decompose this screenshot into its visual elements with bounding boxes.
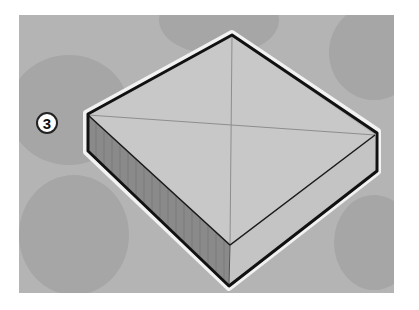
box-diagram (0, 0, 419, 310)
step-number-badge: 3 (36, 112, 58, 134)
